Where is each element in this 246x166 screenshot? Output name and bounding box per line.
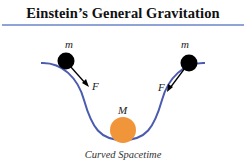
label-mass-right: m — [181, 38, 189, 50]
central-mass-M — [110, 117, 136, 143]
small-mass-left — [58, 53, 75, 70]
label-force-left: F — [92, 80, 99, 92]
label-central-mass: M — [118, 104, 127, 116]
gravitation-diagram — [0, 0, 246, 166]
label-mass-left: m — [65, 38, 73, 50]
caption: Curved Spacetime — [0, 149, 246, 160]
small-mass-right — [181, 55, 198, 72]
label-force-right: F — [158, 81, 165, 93]
force-arrow-left — [70, 66, 86, 84]
